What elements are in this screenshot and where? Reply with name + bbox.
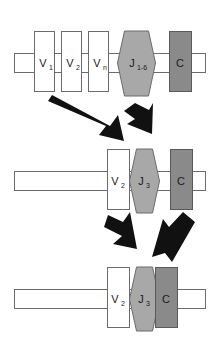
segment-j3-subscript: 3 [146,300,150,307]
segment-j3: J 3 [130,149,160,213]
segment-vn-subscript: n [103,64,107,71]
arrow-vj-down-left [104,212,137,249]
segment-j3-label: J [138,293,144,305]
arrow-c-down-right [152,212,195,262]
segment-c-label: C [176,57,184,69]
segment-j16-subscript: 1-6 [137,64,147,71]
segment-v2: V 2 [62,32,82,92]
segment-v2-subscript: 2 [121,182,125,189]
segment-v2-label: V [66,57,74,69]
segment-v2: V 2 [108,150,130,210]
segment-j16-label: J [129,57,135,69]
segment-v2-subscript: 2 [121,300,125,307]
segment-v1: V 1 [35,32,55,92]
segment-j3-subscript: 3 [146,182,150,189]
segment-j16: J 1-6 [118,31,156,96]
segment-j3-label: J [138,175,144,187]
segment-vn: V n [89,32,109,92]
segment-c-label: C [177,175,185,187]
arrow-v-to-j-left [48,95,124,141]
segment-vn-label: V [93,57,101,69]
segment-v2: V 2 [108,268,130,328]
segment-c: C [170,32,192,92]
segment-c: C [156,268,178,328]
segment-v1-label: V [39,57,47,69]
diagram-canvas: V 1 V 2 V n J 1-6 C [0,0,218,349]
segment-v2-label: V [111,293,119,305]
segment-v2-subscript: 2 [76,64,80,71]
segment-c: C [171,150,193,210]
arrow-group-lower [104,212,195,262]
germline-row: V 1 V 2 V n J 1-6 C [15,31,206,96]
intermediate-row: V 2 J 3 C [15,149,206,213]
arrow-group-upper [48,95,153,141]
segment-v2-label: V [111,175,119,187]
arrow-j-down-right [124,103,153,134]
segment-c-label: C [162,293,170,305]
vdj-recombination-diagram: V 1 V 2 V n J 1-6 C [0,0,218,349]
final-row: V 2 J 3 C [15,267,206,331]
segment-v1-subscript: 1 [49,64,53,71]
